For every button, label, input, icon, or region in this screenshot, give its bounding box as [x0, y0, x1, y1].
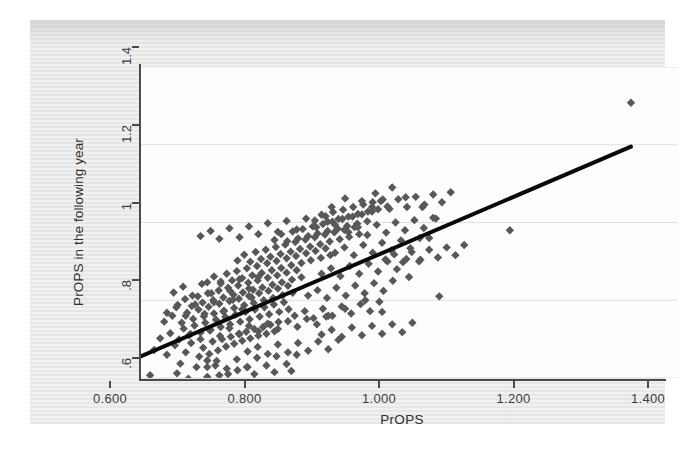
scatter-point — [438, 198, 446, 206]
scatter-point — [270, 368, 278, 376]
y-tick-label: .6 — [119, 358, 134, 369]
scatter-point — [287, 367, 295, 375]
scatter-point — [401, 193, 409, 201]
scatter-point — [235, 233, 243, 241]
scatter-point — [189, 315, 197, 323]
scatter-point — [262, 246, 270, 254]
scatter-point — [292, 266, 300, 274]
gridlines — [140, 67, 678, 378]
scatter-point — [378, 239, 386, 247]
scatter-point — [182, 348, 190, 356]
scatter-point — [341, 194, 349, 202]
x-tick-mark — [109, 381, 111, 388]
scatter-point — [265, 310, 273, 318]
scatter-point — [270, 236, 278, 244]
scatter-point — [169, 288, 177, 296]
scatter-point — [264, 350, 272, 358]
scatter-point — [210, 309, 218, 317]
scatter-point — [223, 270, 231, 278]
scatter-point — [363, 231, 371, 239]
scatter-point — [371, 189, 379, 197]
scatter-point — [276, 250, 284, 258]
scatter-point — [348, 323, 356, 331]
scatter-point — [188, 291, 196, 299]
scatter-point — [304, 291, 312, 299]
x-axis-line — [139, 379, 666, 381]
scatter-point — [389, 277, 397, 285]
x-tick-label: 0.800 — [227, 391, 261, 406]
scatter-point — [203, 373, 211, 378]
scatter-point — [351, 281, 359, 289]
scatter-point — [222, 342, 230, 350]
x-tick-mark — [244, 381, 246, 388]
scatter-point — [370, 279, 378, 287]
scatter-point — [206, 227, 214, 235]
plot-area — [140, 67, 678, 378]
scatter-point — [388, 183, 396, 191]
scatter-plot-svg — [140, 67, 678, 378]
figure-panel: .6.811.21.4 0.6000.8001.0001.2001.400 Pr… — [30, 20, 665, 424]
scatter-point — [215, 371, 223, 378]
scatter-point — [254, 230, 262, 238]
scatter-point — [230, 340, 238, 348]
scatter-point — [379, 287, 387, 295]
scatter-point — [225, 224, 233, 232]
scatter-point — [375, 298, 383, 306]
scatter-point — [360, 289, 368, 297]
scatter-point — [282, 217, 290, 225]
scatter-point — [460, 241, 468, 249]
scatter-point — [274, 340, 282, 348]
scatter-point — [378, 308, 386, 316]
scatter-point — [394, 195, 402, 203]
scatter-point — [325, 237, 333, 245]
y-tick-label: .8 — [119, 280, 134, 291]
x-tick-mark — [647, 381, 649, 388]
scatter-point — [214, 346, 222, 354]
scatter-point — [264, 219, 272, 227]
scatter-point — [235, 329, 243, 337]
scatter-point — [627, 99, 635, 107]
scatter-point — [339, 205, 347, 213]
scatter-point — [287, 261, 295, 269]
scatter-point — [319, 305, 327, 313]
scatter-point — [301, 307, 309, 315]
x-axis-title: PrOPS — [380, 412, 424, 427]
scatter-point — [446, 188, 454, 196]
y-tick-label: 1 — [119, 203, 134, 210]
scatter-point — [284, 348, 292, 356]
scatter-point — [303, 315, 311, 323]
scatter-point — [355, 230, 363, 238]
scatter-point — [184, 375, 192, 378]
scatter-point — [347, 309, 355, 317]
scatter-point — [176, 359, 184, 367]
scatter-point — [215, 235, 223, 243]
scatter-point — [262, 361, 270, 369]
scatter-point — [332, 284, 340, 292]
x-tick-label: 1.200 — [496, 391, 530, 406]
scatter-point — [233, 267, 241, 275]
scatter-point — [442, 243, 450, 251]
scatter-point — [314, 337, 322, 345]
scatter-point — [243, 347, 251, 355]
x-tick-mark — [378, 381, 380, 388]
scatter-point — [233, 256, 241, 264]
scatter-point — [163, 350, 171, 358]
scatter-point — [233, 355, 241, 363]
scatter-point — [272, 243, 280, 251]
scatter-point — [405, 273, 413, 281]
scatter-point — [227, 333, 235, 341]
scatter-point — [368, 322, 376, 330]
scatter-point — [323, 294, 331, 302]
scatter-point — [234, 281, 242, 289]
scatter-point — [196, 335, 204, 343]
scatter-point — [208, 337, 216, 345]
scatter-point — [272, 257, 280, 265]
scatter-point — [248, 271, 256, 279]
scatter-point — [317, 330, 325, 338]
scatter-point — [264, 274, 272, 282]
scatter-point — [297, 259, 305, 267]
scatter-point — [434, 253, 442, 261]
scatter-point — [205, 350, 213, 358]
scatter-point — [359, 241, 367, 249]
scatter-point — [156, 334, 164, 342]
